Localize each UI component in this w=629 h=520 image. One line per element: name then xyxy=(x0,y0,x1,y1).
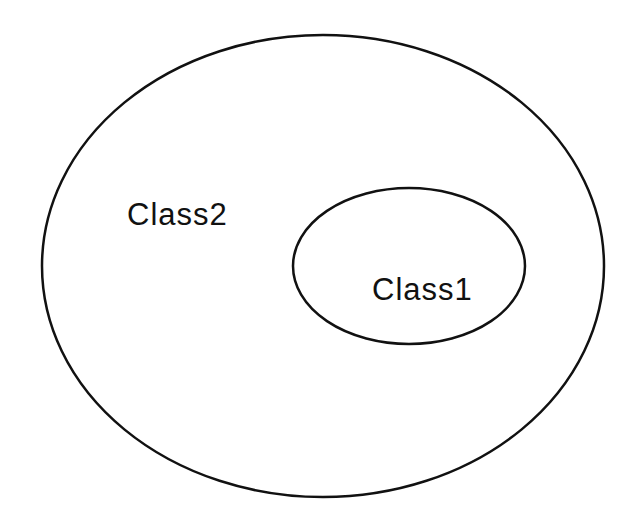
inner-set-ellipse xyxy=(293,188,525,344)
outer-set-ellipse xyxy=(42,35,604,497)
inner-set-label: Class1 xyxy=(372,272,473,307)
set-diagram: Class2 Class1 xyxy=(0,0,629,520)
outer-set-label: Class2 xyxy=(127,197,228,232)
